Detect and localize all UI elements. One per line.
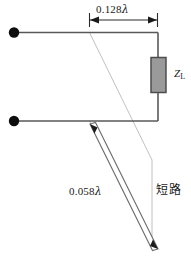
terminal-dot-top-icon: [9, 27, 19, 37]
stub-length-unit: λ: [95, 185, 102, 198]
distance-to-load-label: 0.128λ: [96, 4, 129, 15]
load-impedance-block: [151, 58, 166, 93]
transmission-line-conductors: [14, 33, 158, 122]
stub-matching-figure: 0.128λ 0.058λ 短路 ZL: [0, 0, 191, 268]
stub-length-value: 0.058: [69, 185, 95, 197]
input-terminals: [9, 27, 19, 126]
arrow-left-icon: [90, 17, 99, 24]
load-impedance-subscript: L: [180, 72, 185, 81]
arrow-right-icon: [148, 17, 157, 24]
figure-canvas: [0, 0, 191, 268]
load-impedance-body: [151, 58, 166, 93]
distance-unit: λ: [122, 3, 129, 16]
distance-value: 0.128: [96, 3, 122, 15]
load-impedance-label: ZL: [174, 68, 185, 81]
terminal-dot-bottom-icon: [9, 116, 19, 126]
short-circuit-label: 短路: [156, 184, 181, 196]
stub-length-label: 0.058λ: [69, 186, 102, 197]
